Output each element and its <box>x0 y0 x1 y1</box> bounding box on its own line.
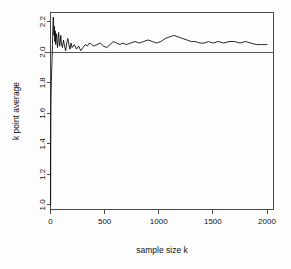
y-tick-label: 1.2 <box>38 168 47 180</box>
x-tick-label: 500 <box>98 217 112 226</box>
x-tick-label: 1500 <box>204 217 222 226</box>
chart-background <box>0 0 291 269</box>
y-tick-label: 2.2 <box>38 16 47 28</box>
chart-canvas: 1.01.21.41.61.82.02.2 0500100015002000 s… <box>0 0 291 269</box>
x-axis-title: sample size k <box>136 245 188 255</box>
y-tick-label: 1.4 <box>38 138 47 150</box>
x-tick-label: 0 <box>48 217 53 226</box>
y-axis-title: k point average <box>11 82 21 140</box>
y-tick-label: 1.6 <box>38 107 47 119</box>
plot-root: 1.01.21.41.61.82.02.2 0500100015002000 s… <box>0 0 291 269</box>
y-tick-label: 1.8 <box>38 77 47 89</box>
y-tick-label: 1.0 <box>38 199 47 211</box>
x-tick-label: 1000 <box>150 217 168 226</box>
x-tick-label: 2000 <box>258 217 276 226</box>
